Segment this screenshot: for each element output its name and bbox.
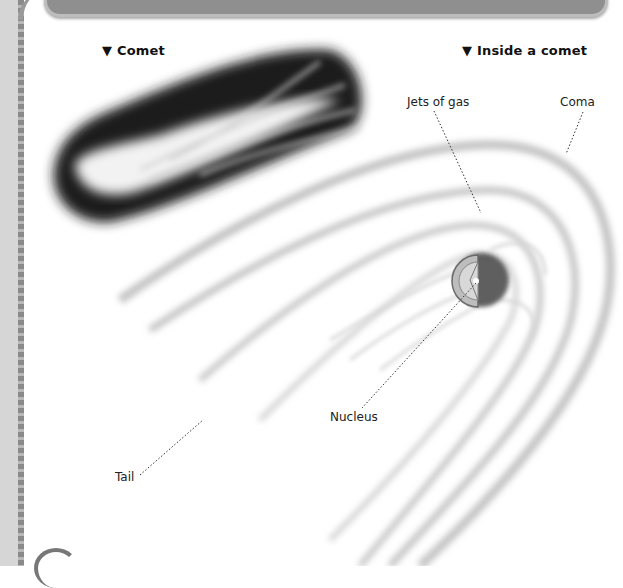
label-jets-of-gas: Jets of gas (407, 95, 469, 109)
nucleus-graphic (452, 253, 509, 307)
coma-bands (120, 145, 610, 566)
page-corner-badge (34, 548, 78, 588)
label-coma: Coma (560, 95, 595, 109)
caption-inside-comet: ▼ Inside a comet (462, 43, 587, 58)
caption-comet: ▼ Comet (102, 43, 165, 58)
label-tail: Tail (115, 470, 134, 484)
label-nucleus: Nucleus (330, 410, 378, 424)
